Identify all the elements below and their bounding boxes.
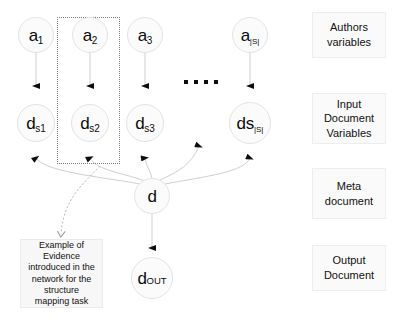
legend-output-document: Output Document — [312, 245, 386, 291]
node-a2[interactable]: a2 — [72, 17, 108, 53]
node-d-meta-label: d — [147, 188, 156, 205]
ellipsis-dot — [204, 80, 208, 84]
node-a-s-label: a|S| — [241, 27, 260, 44]
node-ds2-label: ds2 — [80, 115, 100, 132]
legend-authors-variables: Authors variables — [312, 12, 386, 58]
evidence-note: Example of Evidence introduced in the ne… — [20, 239, 103, 308]
node-a-s[interactable]: a|S| — [232, 17, 268, 53]
diagram-canvas: a1 a2 a3 a|S| ds1 ds2 ds3 ds|S| d dOUT E… — [0, 0, 396, 320]
legend-input-document-variables: Input Document Variables — [312, 93, 386, 144]
node-d-meta[interactable]: d — [134, 178, 170, 214]
node-a1-label: a1 — [29, 27, 44, 44]
node-ds-s-label: ds|S| — [237, 115, 264, 132]
ellipsis-dot — [184, 80, 188, 84]
node-ds3-label: ds3 — [135, 115, 155, 132]
node-a1[interactable]: a1 — [18, 17, 54, 53]
node-a3[interactable]: a3 — [127, 17, 163, 53]
ellipsis-dots — [184, 80, 218, 84]
ellipsis-dot — [194, 80, 198, 84]
edge-d-to-ds3 — [145, 158, 152, 178]
node-a2-label: a2 — [83, 27, 98, 44]
node-a3-label: a3 — [138, 27, 153, 44]
node-ds1-label: ds1 — [26, 115, 46, 132]
edge-d-to-ds-mid — [160, 146, 199, 180]
node-d-out-label: dOUT — [137, 270, 166, 287]
legend-meta-document: Meta document — [312, 168, 386, 219]
ellipsis-dot — [214, 80, 218, 84]
node-ds3[interactable]: ds3 — [126, 104, 164, 142]
node-ds2[interactable]: ds2 — [71, 104, 109, 142]
node-ds1[interactable]: ds1 — [17, 104, 55, 142]
node-d-out[interactable]: dOUT — [131, 257, 173, 299]
node-ds-s[interactable]: ds|S| — [229, 102, 271, 144]
